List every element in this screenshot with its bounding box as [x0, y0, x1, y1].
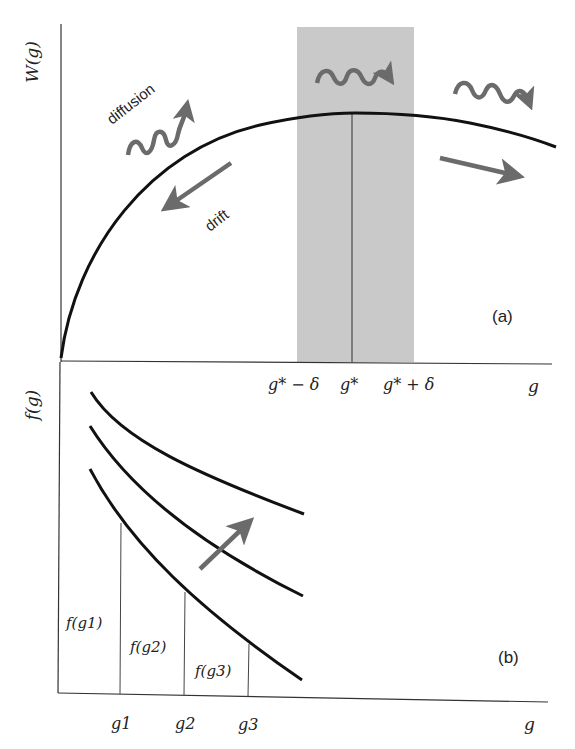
diffusion-label: diffusion: [103, 80, 157, 128]
tick-g-star: g*: [340, 375, 358, 394]
drift-arrow-icon: [170, 163, 231, 205]
panel-b-x-label: g: [524, 714, 535, 734]
bar-g2: [184, 592, 185, 695]
drift-arrow-right-icon: [440, 158, 514, 175]
drift-label: drift: [201, 205, 232, 234]
panel-b-y-label: f(g): [22, 390, 42, 422]
panel-b-x-axis: [58, 693, 548, 702]
f-curve-upper: [91, 392, 304, 514]
bar-label-g3: f(g3): [194, 662, 232, 680]
diffusion-squiggle-right-icon: [455, 83, 528, 102]
diffusion-squiggle-left-icon: [128, 110, 186, 155]
panel-a-y-label: W(g): [22, 41, 42, 83]
tick-g-star-minus-delta: g* − δ: [268, 375, 319, 394]
tick-g1: g1: [111, 714, 131, 733]
f-curve-middle: [90, 426, 303, 596]
shaded-band: [297, 27, 414, 362]
panel-b-label: (b): [498, 648, 519, 667]
tick-g3: g3: [238, 715, 258, 734]
diagram-canvas: W(g) diffusion drift (a) g* − δ g* g* + …: [0, 0, 575, 749]
panel-a: W(g) diffusion drift (a) g* − δ g* g* + …: [22, 24, 556, 396]
bar-g3: [248, 644, 249, 696]
bar-label-g1: f(g1): [65, 614, 103, 632]
bar-label-g2: f(g2): [129, 638, 167, 656]
panel-b-y-axis: [58, 362, 60, 693]
panel-b: f(g) f(g1) f(g2) f(g3) g1 g2 g3 (b) g: [22, 362, 548, 734]
tick-g2: g2: [175, 714, 195, 733]
tick-g-star-plus-delta: g* + δ: [383, 375, 434, 394]
panel-a-x-label: g: [528, 376, 539, 396]
bar-g1: [120, 523, 121, 694]
panel-a-label: (a): [492, 307, 513, 326]
